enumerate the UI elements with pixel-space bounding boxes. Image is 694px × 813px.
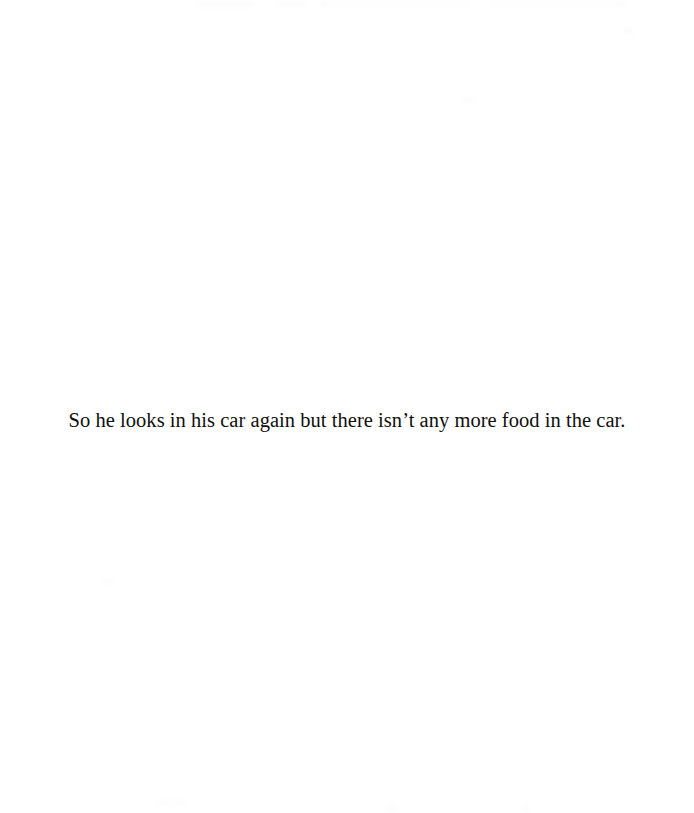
scan-artifact-top: [490, 1, 625, 7]
scan-artifact-top: [624, 28, 634, 34]
body-paragraph: So he looks in his car again but there i…: [69, 407, 626, 433]
scan-artifact-middle: [462, 98, 476, 103]
scan-artifact-bottom: [158, 800, 184, 806]
scan-artifact-bottom: [388, 804, 396, 811]
scan-artifact-top: [276, 1, 306, 6]
scan-artifact-middle: [104, 578, 113, 585]
scan-artifact-top: [196, 2, 254, 7]
scanned-page: So he looks in his car again but there i…: [0, 0, 694, 813]
body-text-block: So he looks in his car again but there i…: [0, 386, 694, 453]
scan-artifact-top: [320, 1, 470, 7]
scan-artifact-bottom: [522, 806, 529, 812]
